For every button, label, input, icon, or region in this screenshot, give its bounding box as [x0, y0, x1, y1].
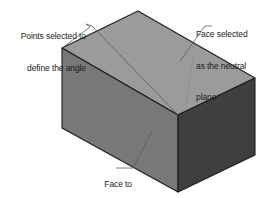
points-selected-callout-line-1: Points selected to — [2, 31, 86, 42]
neutral-plane-callout-line-2: as the neutral — [196, 61, 276, 72]
neutral-plane-callout: Face selected as the neutral plane — [196, 8, 276, 124]
diagram-canvas: Points selected to define the angle Face… — [0, 0, 277, 198]
neutral-plane-callout-line-1: Face selected — [196, 29, 276, 40]
points-selected-callout: Points selected to define the angle — [2, 10, 86, 94]
face-to-be-drafted-callout: Face to be drafted — [42, 158, 132, 198]
points-selected-callout-line-2: define the angle — [2, 63, 86, 74]
face-to-be-drafted-callout-line-1: Face to — [42, 179, 132, 190]
neutral-plane-callout-line-3: plane — [196, 92, 276, 103]
